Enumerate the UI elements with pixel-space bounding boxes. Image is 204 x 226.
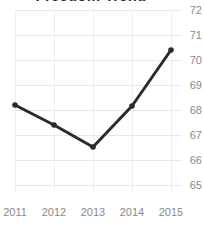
data-point bbox=[168, 47, 174, 53]
y-tick-label-68: 68 bbox=[178, 105, 202, 116]
y-tick-label-71: 71 bbox=[178, 30, 202, 41]
y-tick-label-69: 69 bbox=[178, 80, 202, 91]
y-tick-label-72: 72 bbox=[178, 5, 202, 16]
y-tick-label-66: 66 bbox=[178, 155, 202, 166]
line-chart: Freedom Trend bbox=[0, 0, 204, 226]
x-tick-label-2015: 2015 bbox=[151, 207, 191, 218]
y-tick-label-70: 70 bbox=[178, 55, 202, 66]
plot-area bbox=[0, 0, 204, 226]
x-tick-label-2014: 2014 bbox=[112, 207, 152, 218]
data-point bbox=[12, 102, 18, 108]
x-tick-label-2012: 2012 bbox=[34, 207, 74, 218]
y-tick-label-65: 65 bbox=[178, 180, 202, 191]
horizontal-gridlines bbox=[15, 10, 182, 185]
data-point bbox=[129, 103, 135, 109]
vertical-gridlines bbox=[15, 10, 171, 192]
x-tick-label-2011: 2011 bbox=[0, 207, 35, 218]
x-tick-label-2013: 2013 bbox=[73, 207, 113, 218]
data-point bbox=[90, 144, 96, 150]
data-point bbox=[51, 122, 57, 128]
y-tick-label-67: 67 bbox=[178, 130, 202, 141]
